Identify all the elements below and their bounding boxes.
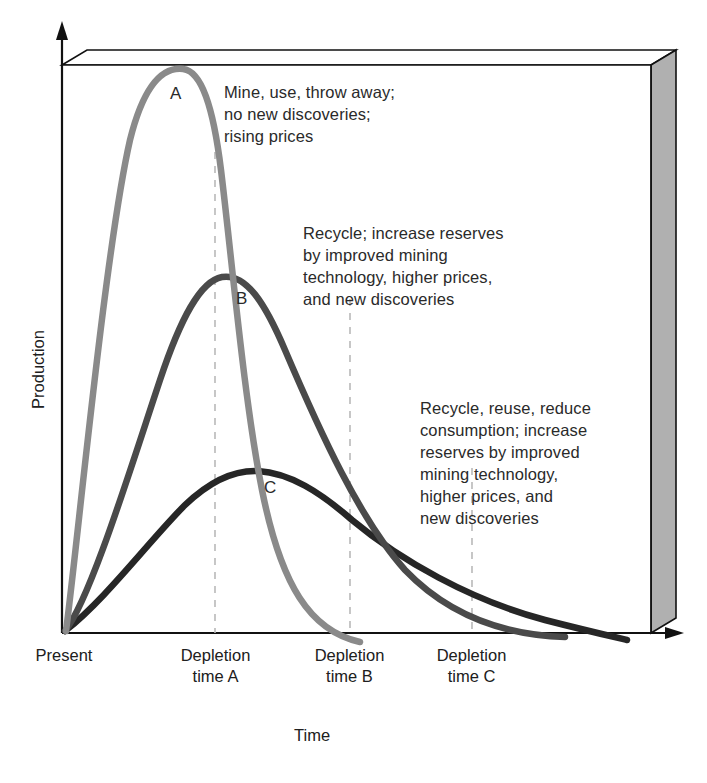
plot-area-background [62,65,651,633]
box-top-face [62,50,676,65]
curve-label-b: B [236,289,247,309]
x-axis-arrowhead [665,627,684,639]
y-axis-title: Production [29,310,48,430]
annotation-b-text: Recycle; increase reserves by improved m… [303,222,504,310]
x-tick-label-depletion-time-a: Depletion time A [163,645,268,687]
y-axis-arrowhead [56,21,68,40]
x-axis-title: Time [294,726,330,745]
x-tick-label-depletion-time-c: Depletion time C [419,645,524,687]
figure-root: Mine, use, throw away; no new discoverie… [0,0,707,783]
curve-label-a: A [170,84,181,104]
x-tick-label-depletion-time-b: Depletion time B [297,645,402,687]
box-right-face [651,50,676,633]
annotation-c-text: Recycle, reuse, reduce consumption; incr… [420,397,591,529]
annotation-a-text: Mine, use, throw away; no new discoverie… [224,81,395,147]
curve-label-c: C [264,478,276,498]
x-tick-label-present: Present [24,645,104,666]
